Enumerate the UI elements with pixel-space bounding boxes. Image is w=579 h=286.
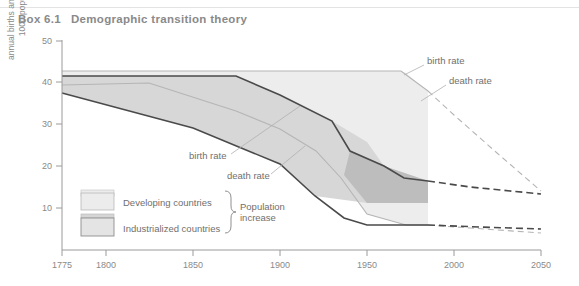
legend-swatch-industrialized-top [81, 214, 114, 218]
industrialized-birth-rate-label: birth rate [189, 150, 227, 161]
developing-birth-rate-label: birth rate [427, 55, 465, 66]
x-tick-label-1900: 1900 [270, 260, 290, 270]
x-axis-tick-labels: 1775 1800 1850 1900 1950 2000 2050 [52, 260, 551, 270]
y-tick-label-40: 40 [42, 77, 52, 87]
y-axis-title-line2: 1000 population [17, 0, 28, 66]
y-tick-label-10: 10 [42, 203, 52, 213]
y-axis-title: annual births and deaths per 1000 popula… [6, 0, 28, 66]
legend-label-developing: Developing countries [123, 197, 212, 208]
page-title: Box 6.1Demographic transition theory [18, 13, 247, 25]
x-tick-label-2000: 2000 [444, 260, 464, 270]
developing-birth-rate-leader-line [404, 65, 424, 75]
developing-death-rate-label: death rate [449, 75, 492, 86]
x-axis-ticks [62, 250, 541, 256]
industrialized-birth-rate-line-projected [428, 181, 541, 194]
legend-swatch-industrialized [81, 218, 114, 236]
x-tick-label-2050: 2050 [531, 260, 551, 270]
y-axis-title-line1: annual births and deaths per [6, 0, 17, 66]
y-tick-label-30: 30 [42, 119, 52, 129]
industrialized-death-rate-line-projected [428, 225, 541, 229]
legend-label-industrialized: Industrialized countries [123, 223, 220, 234]
y-axis-ticks [56, 41, 62, 208]
x-tick-label-1950: 1950 [357, 260, 377, 270]
industrialized-death-rate-label: death rate [227, 170, 270, 181]
y-axis-tick-labels: 50 40 30 20 10 [42, 36, 52, 213]
legend: Developing countries Industrialized coun… [81, 190, 285, 236]
chart-area: 50 40 30 20 10 1775 1800 1850 1900 [0, 28, 579, 286]
legend-swatch-developing [81, 193, 114, 210]
box-title-text: Demographic transition theory [71, 13, 247, 25]
population-increase-brace [225, 191, 236, 233]
developing-birth-rate-line-projected [428, 91, 541, 191]
top-divider-rule [0, 7, 579, 8]
y-tick-label-20: 20 [42, 161, 52, 171]
demographic-transition-chart: 50 40 30 20 10 1775 1800 1850 1900 [0, 28, 579, 286]
y-tick-label-50: 50 [42, 36, 52, 46]
x-tick-label-1850: 1850 [183, 260, 203, 270]
x-tick-label-1775: 1775 [52, 260, 72, 270]
population-increase-label-line2: increase [240, 212, 276, 223]
population-increase-label-line1: Population [240, 201, 285, 212]
figure-root: Box 6.1Demographic transition theory [0, 0, 579, 286]
x-tick-label-1800: 1800 [96, 260, 116, 270]
